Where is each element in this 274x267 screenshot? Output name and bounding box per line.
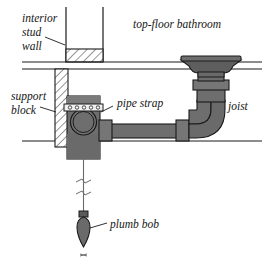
label-support-block-line1: support xyxy=(11,90,47,103)
label-pipe-strap: pipe strap xyxy=(116,97,164,110)
plumb-bob-cap xyxy=(79,211,88,217)
plumbing-diagram: interior stud wall top-floor bathroom su… xyxy=(0,0,274,267)
pipe-strap-hole xyxy=(96,106,99,109)
pipe-strap-hole xyxy=(89,106,92,109)
stud-wall-sole-plate xyxy=(66,49,103,62)
label-interior-stud-wall-line3: wall xyxy=(22,40,42,52)
label-top-floor-bathroom: top-floor bathroom xyxy=(133,18,221,31)
label-interior-stud-wall-line2: stud xyxy=(22,26,41,38)
pipe-coupling-left xyxy=(99,120,112,141)
label-plumb-bob: plumb bob xyxy=(109,218,159,231)
horizontal-pipe-barrel xyxy=(108,124,180,138)
drain-flange-neck xyxy=(198,72,224,77)
junction-box-top-band xyxy=(67,96,100,104)
pipe-strap-hole xyxy=(82,106,85,109)
diagram-canvas: interior stud wall top-floor bathroom su… xyxy=(0,0,274,267)
label-support-block-line2: block xyxy=(11,104,37,116)
junction-box-lower-shade xyxy=(67,134,100,159)
drain-flange-rim xyxy=(181,56,241,61)
pipe-strap-hole xyxy=(75,106,78,109)
junction-box-hub-inner xyxy=(73,112,94,133)
pipe-strap-hole xyxy=(68,106,71,109)
pipe-coupling-right xyxy=(176,120,189,141)
pipe-strap xyxy=(64,104,103,111)
label-joist: joist xyxy=(226,100,249,113)
label-interior-stud-wall-line1: interior xyxy=(22,12,58,24)
